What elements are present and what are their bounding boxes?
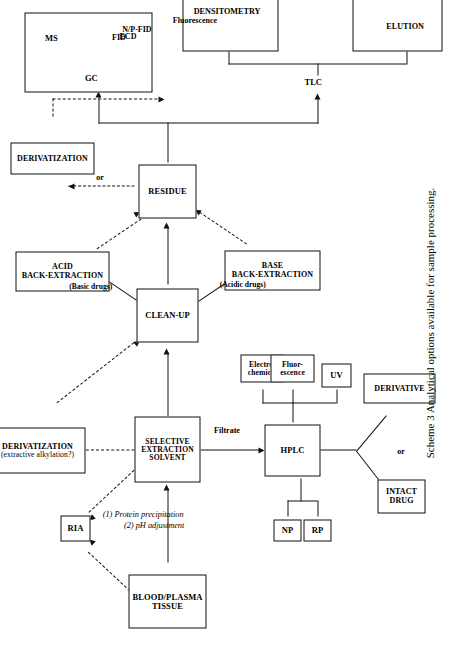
edge-bus-to-electrochemical: [262, 389, 263, 403]
node-gc-label: GC: [84, 74, 97, 84]
label-prep-step-1: (1) Protein precipitation: [102, 510, 183, 519]
edge-extraction-to-ria: [88, 469, 134, 512]
node-uv: UV: [321, 363, 351, 387]
edge-derivatization-out-h: [52, 98, 53, 116]
label-or-residue: or: [96, 174, 104, 183]
edge-tlc-to-elution: [406, 50, 407, 64]
edge-residue-to-derivatization: [68, 185, 134, 186]
node-derivatization-label: DERIVATIZATION: [17, 154, 88, 163]
node-rp-label: RP: [311, 525, 323, 534]
arrowhead-extraction-to-cleanup: [163, 348, 169, 354]
node-hplc-label: HPLC: [280, 445, 304, 454]
edge-cleanup-to-residue: [167, 226, 168, 284]
edge-hplc-to-detectors: [292, 402, 293, 422]
arrowhead-cleanup-to-residue: [163, 222, 169, 228]
node-ms-label: MS: [44, 34, 57, 44]
node-selective-extraction-line1: SELECTIVE EXTRACTION: [135, 437, 199, 453]
node-derivatization-alkylation: DERIVATIZATION (extractive alkylation?): [0, 427, 85, 473]
node-derivatization-alkylation-line2: (extractive alkylation?): [0, 450, 73, 458]
edge-np-stub: [287, 500, 288, 516]
edge-columns-to-hplc: [300, 478, 301, 501]
node-clean-up: CLEAN-UP: [136, 288, 198, 342]
edge-derivatization-out-v: [52, 98, 162, 99]
flowchart-canvas: BLOOD/PLASMA TISSUE (1) Protein precipit…: [0, 0, 449, 648]
node-densitometry-fluorescence-label: Fluorescence: [172, 16, 216, 25]
node-np: NP: [273, 519, 301, 541]
edge-extraction-to-hplc: [200, 449, 262, 450]
node-np-label: NP: [281, 525, 293, 534]
edge-hplc-down: [318, 449, 356, 450]
edge-bus-to-fluorescence: [292, 389, 293, 403]
node-residue: RESIDUE: [138, 164, 196, 218]
node-fluorescence: Fluor- escence: [270, 354, 314, 382]
edge-derivatization-alk-to-cleanup: [56, 342, 134, 403]
node-fluorescence-line2: escence: [280, 368, 305, 376]
node-np-fid-label: N/P-FID: [122, 26, 151, 35]
node-blood-plasma-tissue-line2: TISSUE: [152, 601, 183, 610]
arrowhead-derivatization-out: [158, 97, 164, 103]
edge-to-tlc: [317, 97, 318, 123]
node-ria-label: RIA: [67, 523, 83, 532]
arrowhead-to-tlc: [314, 93, 320, 99]
arrowhead-residue-to-derivatization: [68, 184, 74, 190]
edge-extraction-to-cleanup: [167, 352, 168, 416]
edge-split-to-derivative: [356, 415, 386, 451]
label-base-back-extraction-note: (Acidic drugs): [219, 281, 265, 290]
arrowhead-blood-to-extraction: [163, 484, 169, 490]
edge-detector-bus: [262, 402, 336, 403]
node-blood-plasma-tissue: BLOOD/PLASMA TISSUE: [128, 574, 206, 628]
node-clean-up-label: CLEAN-UP: [145, 310, 190, 319]
label-prep-step-2: (2) pH adjustment: [123, 520, 183, 529]
edge-base-to-residue: [195, 209, 247, 244]
label-filtrate: Filtrate: [214, 427, 240, 436]
node-densitometry-label: DENSITOMETRY: [193, 7, 260, 16]
edge-tlc-stem: [317, 63, 318, 75]
edge-tlc-to-densitometry: [228, 50, 229, 64]
node-rp: RP: [303, 519, 331, 541]
edge-tlc-bracket: [228, 63, 406, 64]
node-selective-extraction-solvent: SELECTIVE EXTRACTION SOLVENT: [134, 416, 200, 482]
node-acid-back-extraction-line2: BACK-EXTRACTION: [21, 271, 103, 280]
label-acid-back-extraction-note: (Basic drugs): [69, 282, 112, 291]
figure-caption: Scheme 3 Analytical options available fo…: [424, 173, 436, 473]
arrowhead-extraction-to-hplc: [258, 448, 264, 454]
edge-residue-right: [167, 122, 168, 162]
edge-bus-to-uv: [336, 389, 337, 403]
label-or-drug: or: [397, 448, 405, 457]
node-tlc-label: TLC: [304, 78, 321, 88]
node-residue-label: RESIDUE: [148, 186, 187, 195]
caption-container: Scheme 3 Analytical options available fo…: [415, 0, 445, 648]
edge-residue-vertical-split: [98, 122, 318, 123]
node-hplc: HPLC: [264, 424, 320, 476]
edge-rp-stub: [317, 500, 318, 516]
scheme-figure: BLOOD/PLASMA TISSUE (1) Protein precipit…: [0, 0, 449, 648]
node-ria: RIA: [60, 515, 90, 541]
node-base-back-extraction-line2: BACK-EXTRACTION: [231, 270, 313, 279]
node-uv-label: UV: [330, 370, 342, 379]
node-intact-drug-line2: DRUG: [389, 496, 413, 505]
node-selective-extraction-line2: SOLVENT: [149, 453, 185, 461]
node-derivatization: DERIVATIZATION: [10, 142, 94, 174]
